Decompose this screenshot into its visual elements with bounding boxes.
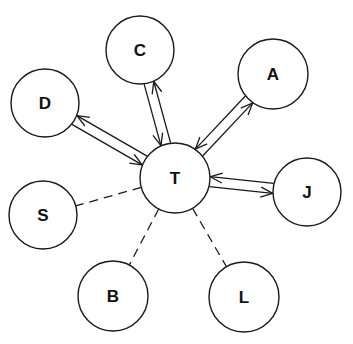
node-label: T — [170, 169, 181, 188]
node-s: S — [9, 181, 77, 249]
edge-t-d — [72, 116, 147, 165]
edge-t-a — [195, 96, 252, 156]
nodes-layer: TCADJSBL — [9, 16, 341, 332]
node-d: D — [11, 69, 79, 137]
edge-t-c — [144, 81, 170, 145]
node-label: C — [134, 41, 146, 60]
node-label: B — [107, 287, 119, 306]
node-label: L — [239, 288, 249, 307]
node-label: S — [37, 206, 48, 225]
node-c: C — [106, 16, 174, 84]
network-diagram: TCADJSBL — [0, 0, 353, 344]
edge-t-l — [193, 208, 227, 266]
node-label: J — [302, 183, 311, 202]
edge-t-b — [129, 209, 158, 265]
node-a: A — [238, 39, 308, 109]
node-label: A — [267, 65, 279, 84]
edge-t-j — [209, 173, 273, 197]
node-j: J — [273, 158, 341, 226]
edge-t-s — [76, 187, 142, 205]
node-t: T — [140, 143, 210, 213]
node-b: B — [78, 261, 148, 331]
node-label: D — [39, 94, 51, 113]
node-l: L — [209, 262, 279, 332]
